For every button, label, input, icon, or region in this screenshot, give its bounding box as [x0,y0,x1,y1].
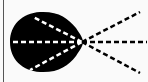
radiating-lines-diagram [0,0,148,82]
dashed-ray-line [82,12,140,42]
dashed-ray-line [82,42,140,73]
